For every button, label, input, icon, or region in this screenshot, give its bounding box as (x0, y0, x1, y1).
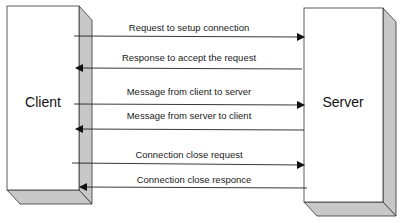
message-1: Request to setup connection (74, 22, 304, 37)
message-label: Response to accept the request (122, 52, 257, 63)
message-4: Message from server to client (76, 110, 304, 130)
message-label: Request to setup connection (129, 22, 249, 33)
arrow-left-icon (80, 187, 307, 188)
arrow-right-icon (74, 36, 304, 37)
message-label: Connection close responce (137, 174, 252, 185)
server-label: Server (322, 94, 364, 110)
message-6: Connection close responce (80, 174, 307, 188)
message-3: Message from client to server (74, 86, 304, 105)
client-label: Client (25, 94, 61, 110)
arrow-left-icon (76, 129, 304, 130)
message-2: Response to accept the request (76, 52, 302, 69)
message-5: Connection close request (72, 149, 304, 165)
arrow-left-icon (76, 68, 302, 69)
client-server-diagram: Client Server Request to setup connectio… (0, 0, 400, 223)
arrow-right-icon (74, 104, 304, 105)
arrow-right-icon (72, 163, 304, 165)
server-box-bottom (304, 202, 396, 216)
message-label: Message from client to server (127, 86, 252, 97)
server-node: Server (304, 8, 396, 216)
client-box-bottom (7, 190, 92, 204)
server-box-side (383, 8, 396, 216)
message-label: Connection close request (135, 149, 243, 160)
message-label: Message from server to client (127, 110, 252, 121)
